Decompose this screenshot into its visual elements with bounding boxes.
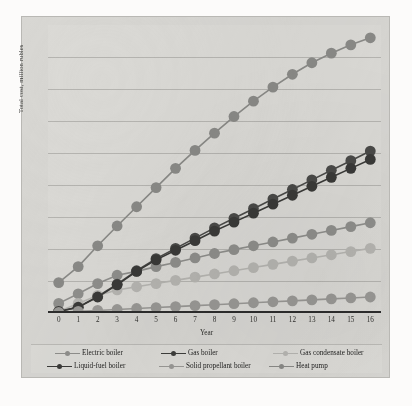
x-tick-label: 15 bbox=[347, 316, 354, 324]
data-point bbox=[268, 199, 279, 210]
chart-screenshot: Total cost, million rubles 0123456789101… bbox=[0, 0, 412, 406]
x-tick-label: 2 bbox=[96, 316, 100, 324]
data-point bbox=[190, 253, 201, 264]
data-point bbox=[151, 254, 162, 265]
data-point bbox=[287, 256, 298, 267]
x-tick-label: 14 bbox=[328, 316, 335, 324]
data-point bbox=[326, 172, 337, 183]
legend: Electric boilerGas boilerGas condensate … bbox=[31, 344, 382, 373]
data-point bbox=[326, 249, 337, 260]
data-point bbox=[229, 298, 240, 309]
x-axis-tick-labels: 012345678910111213141516 bbox=[48, 316, 381, 328]
data-point bbox=[229, 265, 240, 276]
legend-item[interactable]: Heat pump bbox=[269, 359, 328, 373]
x-tick-label: 4 bbox=[135, 316, 139, 324]
data-point bbox=[306, 253, 317, 264]
data-point bbox=[131, 281, 142, 292]
data-point bbox=[287, 233, 298, 244]
legend-marker-icon bbox=[159, 363, 184, 370]
data-point bbox=[170, 163, 181, 174]
legend-label: Heat pump bbox=[296, 362, 328, 370]
x-tick-label: 8 bbox=[213, 316, 217, 324]
data-point bbox=[112, 221, 123, 232]
data-point bbox=[365, 32, 376, 43]
x-tick-label: 7 bbox=[193, 316, 197, 324]
legend-row-2: Liquid-fuel boilerSolid propellant boile… bbox=[31, 359, 382, 373]
legend-marker-icon bbox=[47, 363, 72, 370]
legend-item[interactable]: Liquid-fuel boiler bbox=[47, 359, 125, 373]
data-point bbox=[229, 111, 240, 122]
data-point bbox=[248, 208, 259, 219]
legend-item[interactable]: Gas boiler bbox=[161, 346, 218, 360]
data-point bbox=[306, 181, 317, 192]
data-point bbox=[209, 226, 220, 237]
x-axis-title: Year bbox=[22, 329, 391, 337]
data-point bbox=[209, 248, 220, 259]
data-point bbox=[365, 154, 376, 165]
x-tick-label: 12 bbox=[289, 316, 296, 324]
data-point bbox=[268, 237, 279, 248]
data-point bbox=[229, 217, 240, 228]
x-tick-label: 1 bbox=[76, 316, 80, 324]
data-point bbox=[92, 278, 103, 289]
data-point bbox=[53, 277, 64, 288]
data-point bbox=[73, 261, 84, 272]
x-tick-label: 0 bbox=[57, 316, 61, 324]
x-tick-label: 10 bbox=[250, 316, 257, 324]
legend-marker-icon bbox=[161, 350, 186, 357]
legend-label: Gas condensate boiler bbox=[300, 349, 363, 357]
x-axis-line bbox=[48, 311, 381, 313]
data-point bbox=[112, 279, 123, 290]
data-point bbox=[306, 229, 317, 240]
series-layer bbox=[48, 25, 381, 313]
y-axis-title: Total cost, million rubles bbox=[17, 0, 24, 113]
legend-row-1: Electric boilerGas boilerGas condensate … bbox=[31, 346, 382, 360]
data-point bbox=[209, 299, 220, 310]
data-point bbox=[326, 48, 337, 59]
data-point bbox=[326, 294, 337, 305]
data-point bbox=[92, 292, 103, 303]
legend-label: Electric boiler bbox=[82, 349, 123, 357]
data-point bbox=[73, 288, 84, 299]
data-point bbox=[190, 300, 201, 311]
data-point bbox=[151, 278, 162, 289]
legend-marker-icon bbox=[269, 363, 294, 370]
data-point bbox=[92, 240, 103, 251]
legend-item[interactable]: Solid propellant boiler bbox=[159, 359, 251, 373]
data-point bbox=[326, 225, 337, 236]
series-line bbox=[59, 38, 371, 283]
legend-item[interactable]: Gas condensate boiler bbox=[273, 346, 363, 360]
data-point bbox=[287, 295, 298, 306]
data-point bbox=[268, 82, 279, 93]
data-point bbox=[248, 262, 259, 273]
x-tick-label: 6 bbox=[174, 316, 178, 324]
data-point bbox=[209, 269, 220, 280]
data-point bbox=[190, 235, 201, 246]
data-point bbox=[248, 240, 259, 251]
data-point bbox=[170, 245, 181, 256]
data-point bbox=[190, 272, 201, 283]
x-tick-label: 11 bbox=[269, 316, 276, 324]
figure-card: Total cost, million rubles 0123456789101… bbox=[21, 16, 390, 378]
data-point bbox=[170, 257, 181, 268]
legend-label: Liquid-fuel boiler bbox=[74, 362, 125, 370]
legend-label: Solid propellant boiler bbox=[186, 362, 251, 370]
legend-item[interactable]: Electric boiler bbox=[55, 346, 123, 360]
data-point bbox=[190, 145, 201, 156]
data-point bbox=[248, 297, 259, 308]
data-point bbox=[170, 275, 181, 286]
data-point bbox=[306, 57, 317, 68]
legend-marker-icon bbox=[273, 350, 298, 357]
data-point bbox=[345, 293, 356, 304]
x-tick-label: 9 bbox=[232, 316, 236, 324]
x-tick-label: 3 bbox=[115, 316, 119, 324]
data-point bbox=[248, 96, 259, 107]
data-point bbox=[268, 296, 279, 307]
x-tick-label: 13 bbox=[308, 316, 315, 324]
data-point bbox=[345, 163, 356, 174]
data-point bbox=[345, 246, 356, 257]
data-point bbox=[209, 128, 220, 139]
data-point bbox=[131, 201, 142, 212]
data-point bbox=[365, 243, 376, 254]
data-point bbox=[345, 221, 356, 232]
